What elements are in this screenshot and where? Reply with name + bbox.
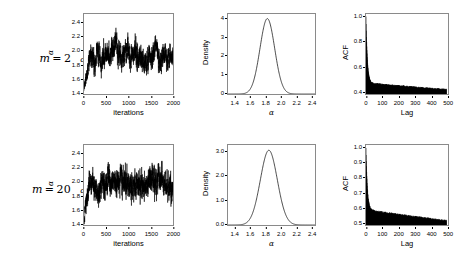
xtick-label: 400 — [427, 100, 437, 106]
density-m2-xlabel: α — [227, 108, 316, 117]
density-m20-xlabel: α — [227, 239, 316, 248]
mcmc-diagnostics-figure: m=2 α 2.4 2.2 2.0 1.8 1.6 1.4 0 500 1000 — [0, 0, 456, 263]
figure-row-m20: m=20 α 2.4 2.2 2.0 1.8 1.6 1.4 0 500 100… — [0, 131, 456, 262]
ytick-label: 2.2 — [72, 164, 80, 170]
trace-m20-ylabel: α — [46, 164, 55, 204]
xtick-label: 300 — [410, 100, 420, 106]
xtick-label: 2000 — [167, 100, 180, 106]
acf-m2-xlabel: Lag — [365, 108, 449, 117]
ytick-label: 0.6 — [354, 64, 362, 70]
xtick-label: 1.4 — [231, 100, 239, 106]
xtick-label: 2.0 — [277, 100, 285, 106]
acf-m2-ylabel: ACF — [341, 33, 350, 73]
ytick-label: 1.8 — [72, 193, 80, 199]
ytick-label: 1.0 — [354, 144, 362, 150]
ytick-label: 1.4 — [72, 90, 80, 96]
xtick-label: 200 — [394, 100, 404, 106]
ytick-label: 0.6 — [354, 205, 362, 211]
xtick-label: 500 — [443, 100, 453, 106]
ytick-label: 1.8 — [72, 62, 80, 68]
xtick-label: 200 — [394, 231, 404, 237]
ytick-label: 0.7 — [354, 190, 362, 196]
panel-acf-m2: 1.0 0.8 0.6 0.4 0 100 200 300 400 500 La… — [330, 0, 456, 131]
ytick-label: 2.0 — [216, 172, 224, 178]
trace-m2-xlabel: iterations — [83, 108, 174, 117]
xtick-label: 1.6 — [246, 100, 254, 106]
trace-m2-ylabel: α — [46, 33, 55, 73]
xtick-label: 1000 — [122, 100, 135, 106]
xtick-label: 2.2 — [293, 231, 301, 237]
ytick-label: 0 — [221, 90, 224, 96]
panel-acf-m20: 1.0 0.9 0.8 0.7 0.6 0.5 0 100 200 300 40… — [330, 131, 456, 262]
xtick-label: 2.4 — [308, 100, 316, 106]
ytick-label: 0.8 — [354, 174, 362, 180]
xtick-label: 300 — [410, 231, 420, 237]
density-plot-m20 — [227, 144, 316, 226]
xtick-label: 1.8 — [262, 100, 270, 106]
xtick-label: 2.2 — [293, 100, 301, 106]
ytick-label: 2.0 — [72, 178, 80, 184]
xtick-label: 500 — [443, 231, 453, 237]
xtick-label: 0 — [364, 100, 367, 106]
ytick-label: 0.0 — [216, 221, 224, 227]
xtick-label: 100 — [377, 231, 387, 237]
trace-m20-xlabel: iterations — [83, 239, 174, 248]
acf-plot-m2 — [365, 13, 449, 95]
ytick-label: 2.4 — [72, 150, 80, 156]
ytick-label: 2.2 — [72, 33, 80, 39]
xtick-label: 1.6 — [246, 231, 254, 237]
ytick-label: 0.9 — [354, 159, 362, 165]
ytick-label: 2.0 — [72, 47, 80, 53]
xtick-label: 500 — [101, 231, 111, 237]
xtick-label: 1500 — [145, 231, 158, 237]
ytick-label: 0.4 — [354, 89, 362, 95]
ytick-label: 1.4 — [72, 221, 80, 227]
acf-m20-xlabel: Lag — [365, 239, 449, 248]
ytick-label: 1.0 — [216, 197, 224, 203]
acf-m20-ylabel: ACF — [341, 164, 350, 204]
density-m2-ylabel: Density — [201, 33, 210, 73]
row-label-symbol: m — [32, 183, 43, 196]
ytick-label: 2 — [221, 52, 224, 58]
ytick-label: 1.6 — [72, 207, 80, 213]
ytick-label: 0.5 — [354, 220, 362, 226]
xtick-label: 1.4 — [231, 231, 239, 237]
panel-density-m2: 4 3 2 1 0 1.4 1.6 1.8 2.0 2.2 2.4 α Dens… — [194, 0, 330, 131]
xtick-label: 1000 — [122, 231, 135, 237]
xtick-label: 100 — [377, 100, 387, 106]
xtick-label: 400 — [427, 231, 437, 237]
xtick-label: 0 — [82, 100, 85, 106]
acf-plot-m20 — [365, 144, 449, 226]
xtick-label: 500 — [101, 100, 111, 106]
ytick-label: 1.0 — [354, 13, 362, 19]
ytick-label: 2.4 — [72, 19, 80, 25]
xtick-label: 1.8 — [262, 231, 270, 237]
xtick-label: 2.0 — [277, 231, 285, 237]
xtick-label: 1500 — [145, 100, 158, 106]
ytick-label: 0.8 — [354, 38, 362, 44]
panel-trace-m2: 2.4 2.2 2.0 1.8 1.6 1.4 0 500 1000 1500 … — [46, 0, 194, 131]
ytick-label: 4 — [221, 15, 224, 21]
ytick-label: 3.0 — [216, 148, 224, 154]
ytick-label: 1.6 — [72, 76, 80, 82]
xtick-label: 0 — [364, 231, 367, 237]
trace-plot-m20 — [83, 144, 174, 226]
ytick-label: 3 — [221, 34, 224, 40]
panel-density-m20: 3.0 2.0 1.0 0.0 1.4 1.6 1.8 2.0 2.2 2.4 … — [194, 131, 330, 262]
density-m20-ylabel: Density — [201, 164, 210, 204]
xtick-label: 2.4 — [308, 231, 316, 237]
ytick-label: 1 — [221, 71, 224, 77]
xtick-label: 0 — [82, 231, 85, 237]
panel-trace-m20: 2.4 2.2 2.0 1.8 1.6 1.4 0 500 1000 1500 … — [46, 131, 194, 262]
density-plot-m2 — [227, 13, 316, 95]
trace-plot-m2 — [83, 13, 174, 95]
xtick-label: 2000 — [167, 231, 180, 237]
figure-row-m2: m=2 α 2.4 2.2 2.0 1.8 1.6 1.4 0 500 1000 — [0, 0, 456, 131]
